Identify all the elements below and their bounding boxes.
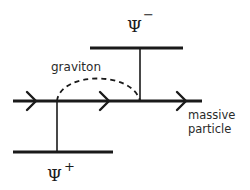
psi-minus-label: Ψ	[127, 16, 142, 36]
psi-plus-superscript: +	[64, 159, 75, 174]
psi-minus-superscript: −	[143, 7, 154, 22]
psi-plus-label: Ψ	[47, 165, 62, 185]
massive-particle-label-line2: particle	[188, 122, 231, 136]
diagram-svg: Ψ − Ψ + graviton massive particle	[0, 0, 250, 190]
feynman-diagram: Ψ − Ψ + graviton massive particle	[0, 0, 250, 190]
graviton-propagator	[57, 78, 140, 101]
massive-particle-label-line1: massive	[188, 108, 235, 122]
graviton-label: graviton	[51, 60, 101, 74]
